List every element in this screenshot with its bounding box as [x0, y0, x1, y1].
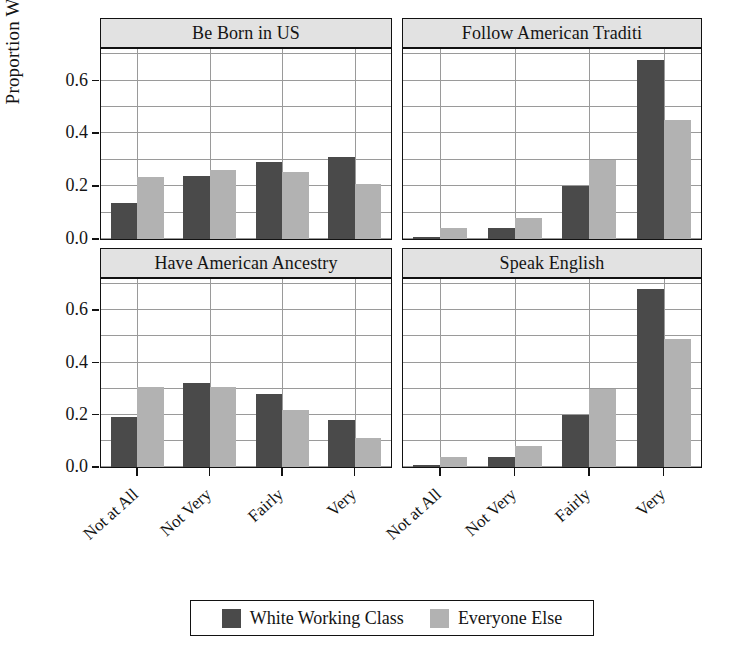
y-tick-mark	[92, 414, 99, 416]
x-tick-mark	[663, 467, 665, 476]
y-tick-mark	[92, 362, 99, 364]
gridline-y	[403, 53, 701, 54]
legend-label: White Working Class	[250, 608, 404, 629]
y-tick-label: 0.6	[42, 299, 88, 320]
plot-area	[100, 48, 392, 240]
bar	[328, 157, 354, 239]
x-tick-mark	[439, 467, 441, 476]
panel-title: Speak English	[500, 253, 605, 274]
legend-entry: Everyone Else	[430, 608, 562, 629]
legend-label: Everyone Else	[458, 608, 562, 629]
y-tick-mark	[92, 132, 99, 134]
y-tick-label: 0.2	[42, 175, 88, 196]
plot-area	[402, 48, 702, 240]
panel-title: Have American Ancestry	[154, 253, 337, 274]
bar	[256, 162, 282, 239]
y-tick-mark	[92, 238, 99, 240]
bar	[413, 237, 440, 239]
plot-area	[402, 278, 702, 468]
legend-swatch-icon	[430, 609, 449, 628]
legend-entry: White Working Class	[222, 608, 404, 629]
panel-title-strip: Be Born in US	[100, 18, 392, 48]
panel-have-american-ancestry: Have American Ancestry0.00.20.40.6Not at…	[100, 248, 392, 468]
panel-follow-american-traditi: Follow American Traditi	[402, 18, 702, 240]
gridline-y	[101, 53, 391, 54]
panel-title: Follow American Traditi	[462, 23, 642, 44]
y-tick-mark	[92, 185, 99, 187]
panel-title-strip: Have American Ancestry	[100, 248, 392, 278]
panel-title: Be Born in US	[192, 23, 300, 44]
x-tick-mark	[514, 467, 516, 476]
panel-title-strip: Follow American Traditi	[402, 18, 702, 48]
bar	[637, 289, 664, 467]
bar	[183, 176, 209, 239]
y-tick-label: 0.2	[42, 403, 88, 424]
y-tick-label: 0.6	[42, 69, 88, 90]
bar	[355, 184, 381, 239]
bar	[515, 218, 542, 239]
bar	[488, 457, 515, 467]
gridline-y	[403, 283, 701, 284]
gridline-x	[440, 279, 441, 467]
panel-speak-english: Speak EnglishNot at AllNot VeryFairlyVer…	[402, 248, 702, 468]
bar	[562, 186, 589, 239]
x-tick-mark	[588, 467, 590, 476]
panel-title-strip: Speak English	[402, 248, 702, 278]
bar	[637, 60, 664, 239]
bar	[413, 465, 440, 467]
bar	[183, 383, 209, 467]
plot-area	[100, 278, 392, 468]
bar	[562, 415, 589, 467]
x-tick-mark	[354, 467, 356, 476]
gridline-y	[101, 80, 391, 81]
bar	[440, 457, 467, 467]
y-tick-label: 0.4	[42, 122, 88, 143]
x-tick-mark	[136, 467, 138, 476]
y-tick-label: 0.0	[42, 456, 88, 477]
bar	[515, 446, 542, 467]
y-tick-label: 0.0	[42, 228, 88, 249]
bar	[210, 170, 236, 239]
y-tick-mark	[92, 309, 99, 311]
gridline-y	[101, 283, 391, 284]
bar	[589, 160, 616, 239]
bar	[664, 339, 691, 467]
bar	[282, 172, 308, 239]
legend-swatch-icon	[222, 609, 241, 628]
y-axis-title: Proportion Who Agree	[2, 0, 28, 146]
bar	[328, 420, 354, 467]
gridline-x	[515, 279, 516, 467]
bar	[664, 120, 691, 239]
y-tick-label: 0.4	[42, 351, 88, 372]
bar	[111, 417, 137, 467]
bar	[137, 387, 163, 467]
gridline-y	[101, 309, 391, 310]
gridline-y	[101, 106, 391, 107]
bar	[137, 177, 163, 239]
bar	[589, 389, 616, 467]
bar	[256, 394, 282, 467]
y-tick-mark	[92, 80, 99, 82]
chart-legend: White Working ClassEveryone Else	[190, 600, 594, 636]
gridline-y	[101, 132, 391, 133]
bar	[282, 410, 308, 467]
panel-grid: Be Born in US0.00.20.40.6Follow American…	[64, 18, 736, 468]
bar	[440, 228, 467, 239]
x-tick-mark	[281, 467, 283, 476]
x-tick-mark	[209, 467, 211, 476]
gridline-y	[101, 335, 391, 336]
gridline-y	[101, 362, 391, 363]
gridline-x	[440, 49, 441, 239]
y-tick-mark	[92, 466, 99, 468]
panel-be-born-in-us: Be Born in US0.00.20.40.6	[100, 18, 392, 240]
bar	[210, 387, 236, 467]
bar	[111, 203, 137, 239]
gridline-x	[515, 49, 516, 239]
bar	[488, 228, 515, 239]
bar	[355, 438, 381, 467]
